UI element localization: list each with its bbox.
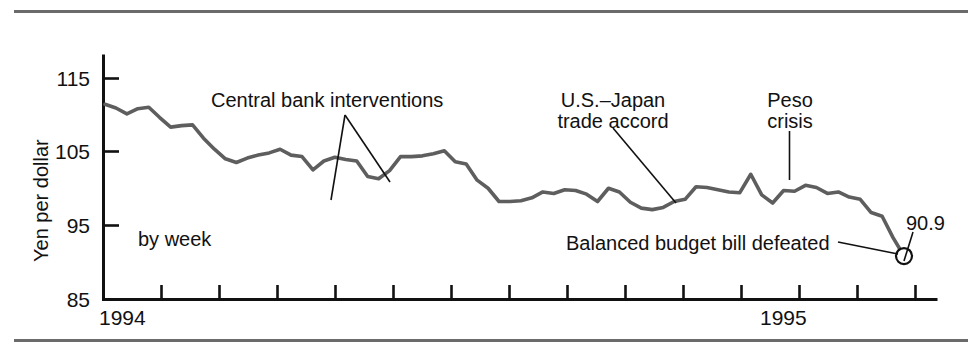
y-tick-marks xyxy=(103,79,119,226)
end-value-label: 90.9 xyxy=(906,212,945,234)
annotation-us-japan-line2: trade accord xyxy=(528,110,698,132)
endpoint-marker xyxy=(896,248,912,264)
leader-balanced-budget xyxy=(838,242,898,254)
annotation-central-bank: Central bank interventions xyxy=(211,89,443,111)
frequency-note: by week xyxy=(138,228,211,250)
leader-us-japan xyxy=(613,128,676,203)
chart-figure: 115 105 95 85 Yen per dollar 1994 1995 b… xyxy=(0,0,968,359)
annotation-us-japan-line1: U.S.–Japan xyxy=(528,89,698,111)
y-tick-label-85: 85 xyxy=(32,288,90,312)
x-tick-label-1994: 1994 xyxy=(99,306,146,330)
leader-central-bank-right xyxy=(345,115,390,182)
y-axis-title: Yen per dollar xyxy=(30,72,52,262)
annotation-balanced-budget: Balanced budget bill defeated xyxy=(566,232,830,254)
x-tick-label-1995: 1995 xyxy=(760,306,807,330)
annotation-peso-line1: Peso xyxy=(740,89,840,111)
x-tick-marks xyxy=(162,285,916,299)
annotation-peso-line2: crisis xyxy=(740,110,840,132)
